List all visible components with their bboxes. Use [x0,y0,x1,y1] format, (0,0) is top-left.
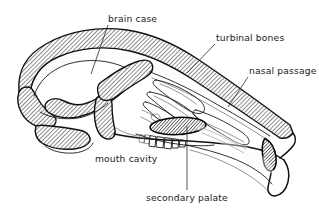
skull-diagram-figure: brain case turbinal bones nasal passage … [0,0,319,218]
skull-illustration: brain case turbinal bones nasal passage … [0,0,319,218]
label-secondary-palate: secondary palate [146,192,228,203]
label-nasal-passage: nasal passage [249,65,317,76]
label-brain-case: brain case [108,13,157,24]
label-turbinal-bones: turbinal bones [216,32,284,43]
label-mouth-cavity: mouth cavity [95,153,158,164]
